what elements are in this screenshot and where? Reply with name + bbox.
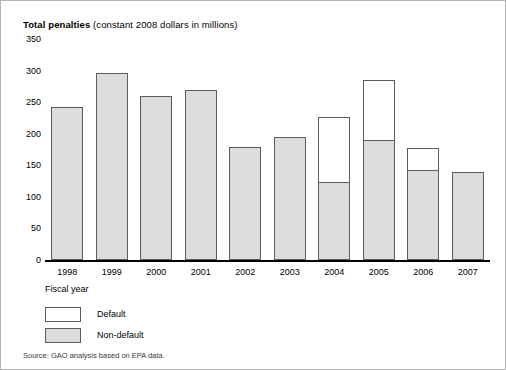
x-axis-tick-label: 2002 xyxy=(235,267,255,277)
legend-item-label: Default xyxy=(97,309,126,319)
y-axis-tick-label: 200 xyxy=(26,129,41,139)
y-axis-tick-label: 50 xyxy=(31,223,41,233)
bar-group[interactable] xyxy=(185,39,217,260)
bar-segment-non-default[interactable] xyxy=(407,170,439,260)
x-axis-tick-label: 2004 xyxy=(324,267,344,277)
y-axis-tick-label: 150 xyxy=(26,160,41,170)
x-axis-tick-label: 2006 xyxy=(413,267,433,277)
x-axis-title: Fiscal year xyxy=(45,284,89,294)
bar-segment-non-default[interactable] xyxy=(96,73,128,260)
bar-segment-non-default[interactable] xyxy=(274,137,306,260)
legend-item-label: Non-default xyxy=(97,330,144,340)
bar-group[interactable] xyxy=(96,39,128,260)
y-axis-tick-label: 250 xyxy=(26,97,41,107)
bar-group[interactable] xyxy=(452,39,484,260)
x-axis-tick-label: 2001 xyxy=(191,267,211,277)
bar-group[interactable] xyxy=(229,39,261,260)
bar-segment-non-default[interactable] xyxy=(51,107,83,260)
bar-segment-non-default[interactable] xyxy=(185,90,217,260)
bar-group[interactable] xyxy=(318,39,350,260)
bar-segment-non-default[interactable] xyxy=(318,182,350,260)
plot-area xyxy=(45,39,490,260)
bar-group[interactable] xyxy=(363,39,395,260)
x-axis-tick-label: 2003 xyxy=(280,267,300,277)
bar-segment-non-default[interactable] xyxy=(363,140,395,260)
x-axis-tick-label: 1998 xyxy=(57,267,77,277)
x-axis-tick-label: 2007 xyxy=(458,267,478,277)
x-axis-tick-label: 2000 xyxy=(146,267,166,277)
x-axis-tick-label: 1999 xyxy=(102,267,122,277)
bar-group[interactable] xyxy=(140,39,172,260)
legend-swatch-icon xyxy=(45,328,81,343)
bar-segment-non-default[interactable] xyxy=(229,147,261,260)
x-axis-line xyxy=(45,260,490,262)
bar-segment-default[interactable] xyxy=(318,117,350,183)
y-axis-labels: 050100150200250300350 xyxy=(1,1,41,370)
chart-title: Total penalties (constant 2008 dollars i… xyxy=(23,19,238,30)
y-axis-tick-label: 350 xyxy=(26,34,41,44)
x-axis-tick-label: 2005 xyxy=(369,267,389,277)
bar-group[interactable] xyxy=(51,39,83,260)
bar-segment-default[interactable] xyxy=(363,80,395,141)
y-axis-tick-label: 0 xyxy=(36,255,41,265)
bar-segment-non-default[interactable] xyxy=(140,96,172,260)
chart-title-units: (constant 2008 dollars in millions) xyxy=(90,19,237,30)
legend-swatch-icon xyxy=(45,307,81,322)
bar-segment-non-default[interactable] xyxy=(452,172,484,260)
chart-figure: Total penalties (constant 2008 dollars i… xyxy=(0,0,506,370)
y-axis-tick-label: 100 xyxy=(26,192,41,202)
bar-segment-default[interactable] xyxy=(407,148,439,171)
bar-group[interactable] xyxy=(407,39,439,260)
bar-group[interactable] xyxy=(274,39,306,260)
source-note: Source: GAO analysis based on EPA data. xyxy=(23,351,165,360)
y-axis-tick-label: 300 xyxy=(26,66,41,76)
